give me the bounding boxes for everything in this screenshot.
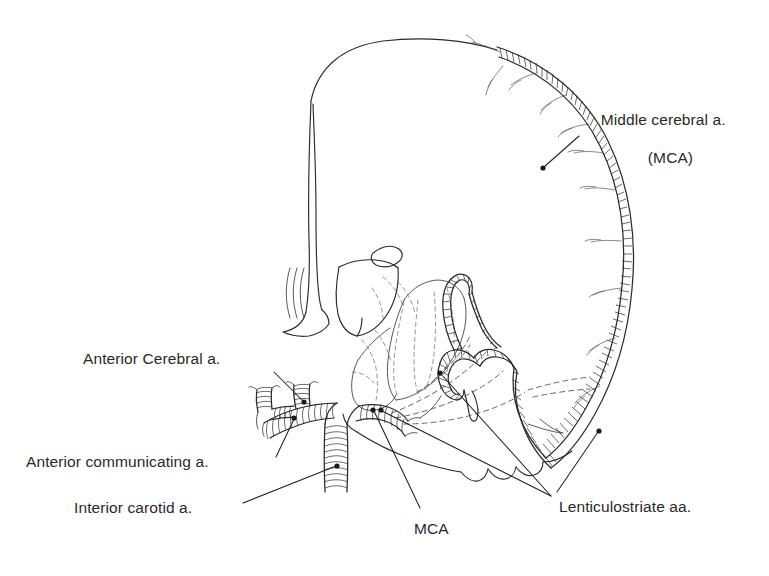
leader-middle-cerebral (544, 136, 579, 167)
leader-dot-lenticulostriate-a (378, 407, 383, 412)
internal-capsule-striatum (352, 277, 466, 410)
label-middle-cerebral-line2: (MCA) (583, 149, 758, 168)
thalamus-basal-ganglia (286, 246, 402, 336)
anatomy-drawing (0, 0, 769, 576)
leader-anterior-cerebral (274, 372, 303, 401)
label-mca-short: MCA (414, 520, 449, 539)
leader-dot-mca-short (370, 407, 375, 412)
leader-internal-carotid (243, 466, 336, 503)
label-anterior-cerebral-artery: Anterior Cerebral a. (83, 350, 220, 369)
cerebral-hemisphere-outline (283, 39, 497, 337)
figure-root: Middle cerebral a. (MCA) Anterior Cerebr… (0, 0, 769, 576)
leader-dot-internal-carotid (334, 463, 339, 468)
label-anterior-communicating-artery: Anterior communicating a. (26, 453, 209, 472)
leader-dot-lenticulostriate-c (596, 428, 601, 433)
leader-dot-middle-cerebral (540, 165, 545, 170)
leader-dot-anterior-cerebral (301, 399, 306, 404)
leader-lines (243, 136, 602, 508)
label-internal-carotid-artery: Interior carotid a. (74, 499, 192, 518)
label-middle-cerebral-artery: Middle cerebral a. (MCA) (583, 92, 758, 205)
mca-m1-segment (356, 396, 441, 436)
temporal-lobe (343, 414, 572, 481)
internal-carotid-artery (324, 403, 359, 492)
leader-dot-anterior-communicating (291, 415, 296, 420)
label-lenticulostriate-arteries: Lenticulostriate aa. (559, 498, 691, 517)
leader-dot-lenticulostriate-b (437, 370, 442, 375)
label-middle-cerebral-line1: Middle cerebral a. (601, 111, 726, 128)
